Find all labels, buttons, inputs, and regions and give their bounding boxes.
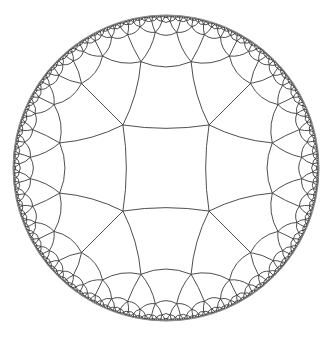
tiling-edge bbox=[229, 280, 236, 295]
tiling-edge bbox=[95, 295, 101, 300]
tiling-edge bbox=[251, 75, 274, 83]
tiling-edge bbox=[27, 114, 36, 117]
tiling-edge bbox=[229, 280, 248, 285]
tiling-edge bbox=[167, 315, 170, 319]
tiling-edge bbox=[83, 285, 87, 294]
tiling-edge bbox=[272, 193, 299, 206]
tiling-edge bbox=[14, 164, 15, 165]
tiling-edge bbox=[112, 299, 115, 308]
tiling-edge bbox=[237, 37, 241, 40]
tiling-edge bbox=[15, 154, 19, 155]
tiling-edge bbox=[208, 309, 212, 312]
tiling-edge bbox=[278, 231, 283, 250]
tiling-edge bbox=[299, 230, 303, 232]
tiling-edge bbox=[220, 280, 229, 299]
tiling-edge bbox=[54, 193, 61, 231]
tiling-edge bbox=[141, 274, 155, 303]
tiling-edge bbox=[152, 304, 156, 315]
tiling-edge bbox=[155, 32, 176, 35]
tiling-edge bbox=[269, 271, 275, 272]
tiling-edge bbox=[95, 280, 102, 295]
tiling-edge bbox=[229, 41, 236, 56]
tiling-edge bbox=[278, 85, 283, 104]
tiling-edge bbox=[72, 275, 74, 284]
tiling-edge bbox=[251, 231, 278, 252]
tiling-edge bbox=[49, 231, 54, 250]
tiling-edge bbox=[209, 125, 272, 143]
tiling-edge bbox=[144, 17, 145, 18]
tiling-edge bbox=[128, 24, 129, 34]
tiling-edge bbox=[299, 130, 309, 131]
tiling-edge bbox=[20, 124, 21, 125]
tiling-edge bbox=[316, 146, 317, 147]
tiling-edge bbox=[120, 309, 124, 312]
tiling-edge bbox=[155, 21, 162, 32]
tiling-edge bbox=[18, 194, 25, 195]
tiling-edge bbox=[186, 21, 191, 27]
tiling-edge bbox=[249, 51, 259, 60]
tiling-edge bbox=[229, 56, 250, 83]
tiling-edge bbox=[192, 309, 199, 313]
tiling-edge bbox=[83, 43, 87, 52]
tiling-edge bbox=[120, 27, 127, 35]
tiling-edge bbox=[278, 231, 293, 238]
tiling-edge bbox=[251, 253, 274, 261]
tiling-edge bbox=[73, 253, 81, 276]
tiling-edge bbox=[177, 21, 181, 32]
tiling-edge bbox=[47, 262, 48, 263]
tiling-edge bbox=[128, 35, 141, 62]
tiling-edge bbox=[283, 85, 292, 89]
tiling-edge bbox=[192, 20, 193, 27]
tiling-edge bbox=[59, 271, 62, 274]
tiling-edge bbox=[269, 271, 270, 277]
tiling-edge bbox=[162, 320, 163, 321]
tiling-edge bbox=[38, 87, 41, 89]
tiling-edge bbox=[228, 301, 230, 305]
tiling-edge bbox=[167, 17, 170, 21]
tiling-edge bbox=[123, 208, 209, 211]
tiling-edge bbox=[251, 61, 259, 84]
tiling-edge bbox=[112, 35, 128, 39]
tiling-edge bbox=[259, 275, 266, 279]
tiling-edge bbox=[73, 275, 83, 284]
tiling-edge bbox=[311, 124, 312, 125]
tiling-edge bbox=[161, 17, 162, 21]
tiling-edge bbox=[101, 301, 103, 305]
tiling-edge bbox=[170, 315, 171, 319]
tiling-edge bbox=[72, 284, 76, 287]
tiling-edge bbox=[59, 65, 63, 76]
tiling-edge bbox=[273, 261, 277, 268]
tiling-edge bbox=[144, 318, 145, 319]
tiling-edge bbox=[33, 206, 37, 222]
tiling-edge bbox=[39, 231, 54, 238]
tiling-edge bbox=[204, 35, 220, 39]
tiling-edge bbox=[80, 285, 83, 291]
tiling-edge bbox=[259, 56, 266, 60]
tiling-edge bbox=[272, 130, 299, 143]
tiling-edge bbox=[313, 152, 316, 154]
tiling-edge bbox=[19, 188, 25, 193]
tiling-edge bbox=[15, 181, 19, 182]
tiling-edge bbox=[20, 136, 24, 143]
tiling-edge bbox=[47, 74, 50, 78]
tiling-edge bbox=[16, 152, 19, 154]
tiling-edge bbox=[220, 298, 230, 300]
tiling-edge bbox=[25, 206, 33, 213]
tiling-edge bbox=[15, 172, 19, 173]
tiling-edge bbox=[123, 211, 141, 274]
tiling-edge bbox=[33, 130, 60, 143]
tiling-edge bbox=[297, 222, 304, 226]
tiling-edge bbox=[95, 41, 102, 56]
tiling-edge bbox=[123, 62, 141, 125]
tiling-edge bbox=[101, 31, 103, 35]
tiling-edge bbox=[293, 97, 298, 98]
tiling-edge bbox=[313, 154, 317, 155]
tiling-edge bbox=[19, 182, 20, 188]
tiling-edge bbox=[15, 163, 19, 164]
tiling-edge bbox=[296, 103, 298, 113]
tiling-edge bbox=[54, 261, 58, 268]
tiling-edge bbox=[278, 97, 293, 104]
tiling-edge bbox=[271, 193, 278, 231]
tiling-edge bbox=[18, 205, 19, 206]
tiling-edge bbox=[15, 164, 19, 167]
